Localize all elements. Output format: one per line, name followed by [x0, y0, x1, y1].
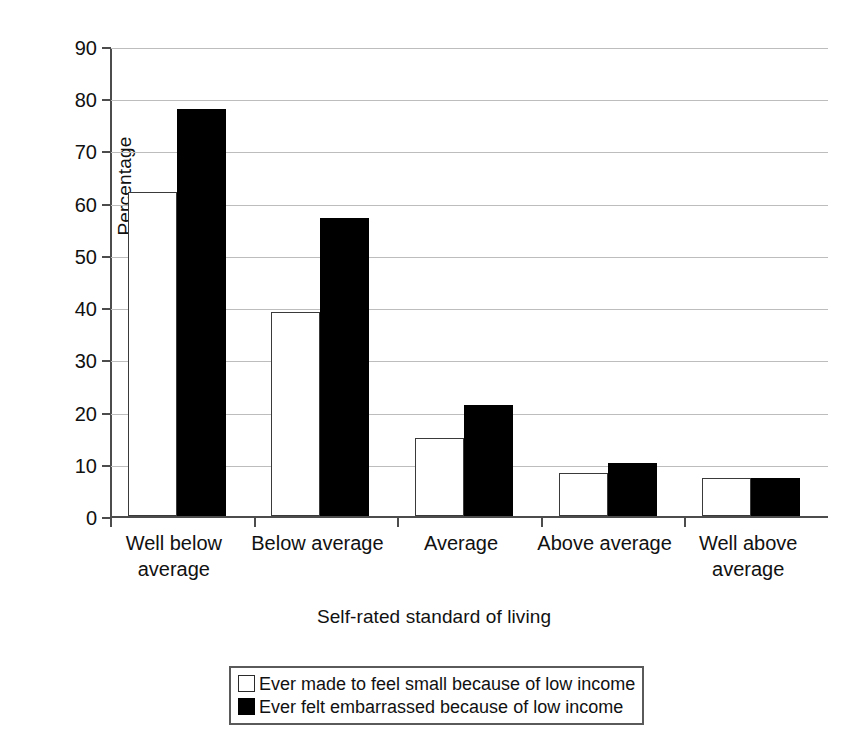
y-tick-mark: [102, 204, 111, 206]
y-tick-mark: [102, 465, 111, 467]
legend-item: Ever felt embarrassed because of low inc…: [238, 695, 635, 718]
bar: [271, 312, 320, 516]
x-category-label-line: Well below: [102, 530, 246, 556]
legend-label: Ever made to feel small because of low i…: [259, 675, 635, 693]
x-category-label: Above average: [533, 530, 677, 556]
y-tick-label: 90: [75, 38, 97, 58]
x-category-label-line: Below average: [246, 530, 390, 556]
y-tick-mark: [102, 99, 111, 101]
x-tick-mark: [684, 517, 686, 527]
x-category-label-line: average: [676, 556, 820, 582]
x-tick-mark: [397, 517, 399, 527]
plot-area: 0102030405060708090: [110, 48, 828, 518]
y-tick-mark: [102, 308, 111, 310]
bar: [464, 405, 513, 516]
bar: [559, 473, 608, 516]
x-category-label: Below average: [246, 530, 390, 556]
x-category-label: Well aboveaverage: [676, 530, 820, 582]
legend-swatch-black-icon: [238, 698, 255, 715]
bar: [177, 109, 226, 516]
bar-chart-figure: Percentage 0102030405060708090 Well belo…: [0, 0, 868, 730]
y-tick-mark: [102, 413, 111, 415]
legend-swatch-white-icon: [238, 675, 255, 692]
legend-item: Ever made to feel small because of low i…: [238, 672, 635, 695]
y-tick-mark: [102, 360, 111, 362]
y-tick-label: 0: [86, 508, 97, 528]
y-tick-label: 10: [75, 456, 97, 476]
bar-group: [702, 48, 800, 516]
x-category-label: Well belowaverage: [102, 530, 246, 582]
bar-group: [559, 48, 657, 516]
y-tick-label: 40: [75, 299, 97, 319]
y-tick-label: 70: [75, 142, 97, 162]
bar: [415, 438, 464, 516]
bar-group: [271, 48, 369, 516]
x-category-label-line: average: [102, 556, 246, 582]
x-category-label: Average: [389, 530, 533, 556]
y-tick-mark: [102, 256, 111, 258]
bar: [751, 478, 800, 516]
x-category-label-line: Average: [389, 530, 533, 556]
y-tick-label: 80: [75, 90, 97, 110]
y-tick-label: 60: [75, 195, 97, 215]
legend-label: Ever felt embarrassed because of low inc…: [259, 698, 623, 716]
y-tick-label: 20: [75, 404, 97, 424]
y-tick-mark: [102, 47, 111, 49]
y-axis-line: [110, 48, 112, 518]
bar: [128, 192, 177, 516]
x-category-label-line: Above average: [533, 530, 677, 556]
y-tick-mark: [102, 151, 111, 153]
x-axis-line: [110, 516, 828, 518]
y-tick-label: 30: [75, 351, 97, 371]
bar-group: [128, 48, 226, 516]
x-category-label-line: Well above: [676, 530, 820, 556]
x-tick-mark: [254, 517, 256, 527]
y-tick-label: 50: [75, 247, 97, 267]
legend: Ever made to feel small because of low i…: [229, 666, 644, 725]
bar: [608, 463, 657, 516]
x-tick-mark: [541, 517, 543, 527]
bar: [702, 478, 751, 516]
x-axis-title: Self-rated standard of living: [0, 606, 868, 628]
x-tick-mark: [110, 517, 112, 527]
bar: [320, 218, 369, 516]
bar-group: [415, 48, 513, 516]
